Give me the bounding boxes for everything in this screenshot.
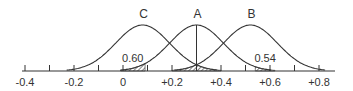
curve-b <box>174 25 325 70</box>
labels: -0.4-0.20+0.2+0.4+0.6+0.8CAB0.600.54 <box>16 7 330 88</box>
annotation-value: 0.54 <box>254 52 275 64</box>
tick-label: -0.2 <box>65 76 84 88</box>
tick-label: +0.4 <box>210 76 232 88</box>
curve-label-b: B <box>247 7 255 21</box>
tick-label: +0.2 <box>161 76 183 88</box>
diagram-svg: -0.4-0.20+0.2+0.4+0.6+0.8CAB0.600.54 <box>0 0 353 91</box>
tick-label: -0.4 <box>16 76 35 88</box>
annotation-value: 0.60 <box>122 52 143 64</box>
tick-label: +0.6 <box>259 76 281 88</box>
distribution-diagram: -0.4-0.20+0.2+0.4+0.6+0.8CAB0.600.54 <box>0 0 353 91</box>
tick-label: +0.8 <box>308 76 330 88</box>
curve-label-c: C <box>139 7 148 21</box>
curves <box>67 25 325 70</box>
tick-label: 0 <box>120 76 126 88</box>
curve-label-a: A <box>193 7 201 21</box>
